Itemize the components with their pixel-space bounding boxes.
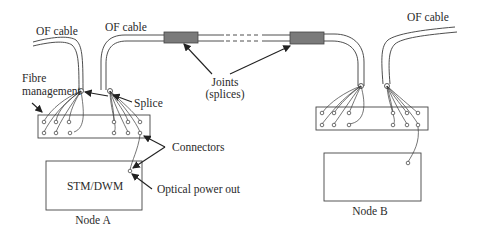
fibre-span <box>198 35 290 41</box>
label-optical-power-out: Optical power out <box>157 183 240 196</box>
label-connectors: Connectors <box>172 141 224 154</box>
label-node-b: Node B <box>345 205 395 218</box>
label-joints-line1: Joints <box>203 76 247 89</box>
of-cable-to-node-b <box>324 34 364 86</box>
joint-2 <box>290 32 324 44</box>
optical-port-b <box>406 161 410 165</box>
joint-1 <box>164 32 198 43</box>
of-cable-mid <box>101 35 164 90</box>
of-cable-right <box>382 27 457 84</box>
label-node-a: Node A <box>68 214 118 227</box>
label-joints-line2: (splices) <box>200 88 250 101</box>
label-fibre-management-line2: management <box>22 85 81 98</box>
label-of-cable-mid: OF cable <box>105 21 147 34</box>
label-splice: Splice <box>134 97 163 110</box>
optical-output-port-a <box>128 169 132 173</box>
label-of-cable-left: OF cable <box>36 25 78 38</box>
node-b-equipment-box <box>324 153 421 201</box>
label-fibre-management-line1: Fibre <box>22 72 46 85</box>
label-of-cable-right: OF cable <box>407 11 449 24</box>
label-equipment: STM/DWM <box>60 180 130 193</box>
